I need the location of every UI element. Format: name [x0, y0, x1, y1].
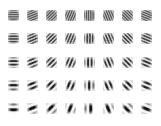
- gabor-tile: [8, 57, 19, 68]
- gabor-tile: [8, 103, 19, 114]
- gabor-tile: [103, 103, 114, 114]
- gabor-tile: [122, 103, 133, 114]
- gabor-tile: [122, 33, 133, 44]
- gabor-tile: [84, 103, 95, 114]
- gabor-tile: [65, 33, 76, 44]
- gabor-tile: [122, 57, 133, 68]
- gabor-tile: [65, 80, 76, 91]
- gabor-tile: [8, 80, 19, 91]
- gabor-tile: [27, 10, 38, 21]
- gabor-tile: [103, 10, 114, 21]
- gabor-tile: [46, 57, 57, 68]
- gabor-tile: [84, 33, 95, 44]
- gabor-tile: [141, 57, 152, 68]
- gabor-tile: [27, 80, 38, 91]
- gabor-tile: [103, 80, 114, 91]
- gabor-tile: [84, 10, 95, 21]
- gabor-tile: [141, 103, 152, 114]
- gabor-tile: [84, 80, 95, 91]
- gabor-tile: [141, 10, 152, 21]
- gabor-tile: [8, 33, 19, 44]
- gabor-tile: [65, 10, 76, 21]
- gabor-tile: [27, 33, 38, 44]
- gabor-tile: [65, 103, 76, 114]
- gabor-tile: [122, 10, 133, 21]
- gabor-tile: [65, 57, 76, 68]
- gabor-tile: [46, 103, 57, 114]
- gabor-tile: [141, 80, 152, 91]
- gabor-tile: [46, 10, 57, 21]
- gabor-tile: [103, 57, 114, 68]
- gabor-tile: [84, 57, 95, 68]
- gabor-tile: [8, 10, 19, 21]
- gabor-tile: [46, 33, 57, 44]
- gabor-tile: [46, 80, 57, 91]
- gabor-tile: [141, 33, 152, 44]
- gabor-tile: [27, 103, 38, 114]
- gabor-tile: [27, 57, 38, 68]
- gabor-filter-grid: [0, 0, 161, 126]
- gabor-tile: [103, 33, 114, 44]
- gabor-tile: [122, 80, 133, 91]
